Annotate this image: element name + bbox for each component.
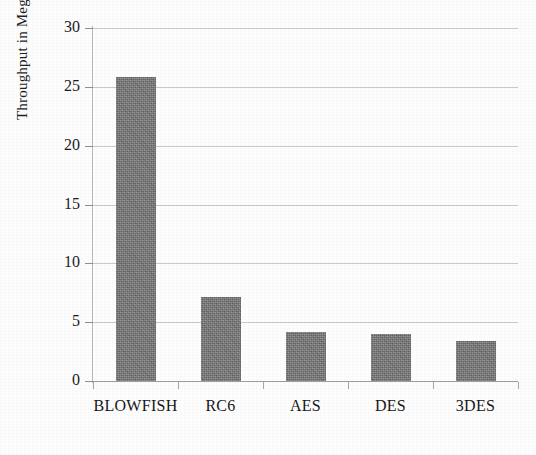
x-axis-line [93,381,518,382]
x-tick-edge-0 [93,382,94,389]
y-axis-title: Throughput in MegaBytes [14,0,40,120]
gridline-25 [93,87,518,88]
x-tick-edge-5 [518,382,519,389]
gridline-5 [93,322,518,323]
gridline-15 [93,205,518,206]
x-tick-3 [348,382,349,389]
y-tick-0 [85,381,93,382]
x-tick-label-aes: AES [263,396,348,415]
y-tick-label-15: 15 [50,196,80,212]
bar-3des [456,341,496,381]
x-tick-2 [263,382,264,389]
y-tick-20 [85,146,93,147]
bar-aes [286,332,326,381]
y-tick-label-5: 5 [50,313,80,329]
y-tick-label-30: 30 [50,19,80,35]
y-tick-label-0: 0 [50,372,80,388]
bar-blowfish [116,77,156,381]
y-tick-10 [85,263,93,264]
x-tick-4 [433,382,434,389]
y-tick-5 [85,322,93,323]
cut-off-caption [0,446,536,455]
gridline-20 [93,146,518,147]
x-tick-label-des: DES [348,396,433,415]
bar-des [371,334,411,381]
x-tick-label-blowfish: BLOWFISH [93,396,178,415]
y-tick-label-25: 25 [50,78,80,94]
y-tick-label-10: 10 [50,254,80,270]
y-tick-label-20: 20 [50,137,80,153]
plot-area [93,28,518,381]
gridline-30 [93,28,518,29]
gridline-10 [93,263,518,264]
y-tick-25 [85,87,93,88]
x-tick-label-rc6: RC6 [178,396,263,415]
bar-rc6 [201,297,241,381]
x-tick-1 [178,382,179,389]
y-tick-30 [85,28,93,29]
y-tick-15 [85,205,93,206]
x-tick-label-3des: 3DES [433,396,518,415]
bar-chart-figure: Throughput in MegaBytes 051015202530 BLO… [0,0,536,455]
